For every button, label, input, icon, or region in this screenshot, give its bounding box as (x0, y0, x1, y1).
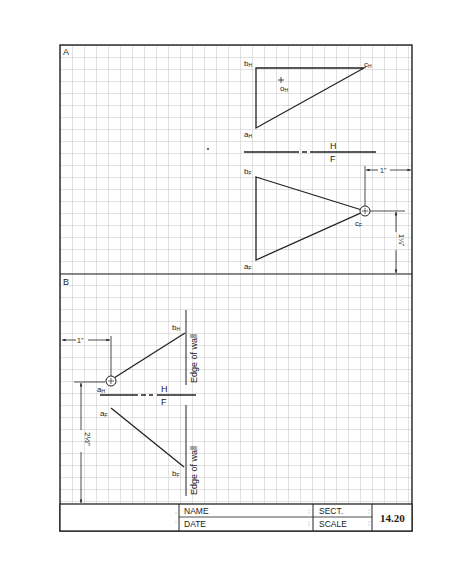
drawing-sheet: A bH cH oH aH H F bF cF aF (0, 0, 452, 571)
fold-label-h-a: H (330, 141, 337, 151)
sect-field-label: SECT. (319, 506, 343, 516)
wall-label-top: Edge of wall (189, 334, 199, 383)
dimension-1-25in-a-label: 1¼" (398, 234, 405, 247)
date-field-label: DATE (184, 519, 206, 529)
fold-label-f-b: F (161, 397, 167, 407)
name-field-label: NAME (184, 506, 209, 516)
title-block: NAME DATE SECT. SCALE 14.20 (60, 504, 412, 531)
fold-label-h-b: H (161, 384, 168, 394)
sheet-number: 14.20 (380, 512, 405, 524)
dimension-2-5in-b-label: 2½" (83, 432, 92, 446)
dimension-1in-b-label: 1" (77, 337, 84, 344)
panel-a-label: A (63, 47, 69, 57)
scale-field-label: SCALE (319, 519, 347, 529)
dimension-1in-a-label: 1" (380, 167, 387, 174)
stray-dot (207, 148, 209, 150)
panel-b-label: B (63, 277, 69, 287)
fold-label-f-a: F (330, 154, 336, 164)
wall-label-bottom: Edge of wall (189, 446, 199, 495)
